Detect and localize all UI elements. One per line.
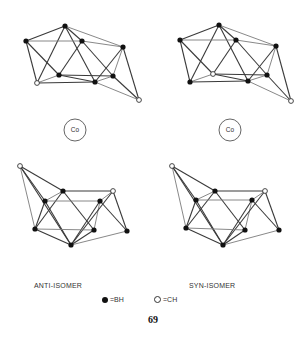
bh-atom-icon (177, 37, 182, 42)
bond-line (172, 166, 215, 191)
bond-line (223, 230, 245, 245)
bond-line (186, 200, 196, 228)
legend-label-bh: =BH (110, 296, 124, 303)
bh-atom-icon (220, 242, 225, 247)
legend-item-ch: =CH (154, 296, 177, 303)
bh-atom-icon (187, 79, 192, 84)
bond-line (59, 75, 113, 76)
structure-syn-top (180, 25, 291, 101)
anti-isomer-label: ANTI-ISOMER (34, 282, 82, 289)
bh-atom-icon (68, 242, 73, 247)
bond-line (82, 41, 113, 76)
ch-atom-icon (137, 98, 142, 103)
bh-atom-icon (233, 37, 238, 42)
bond-line (95, 47, 123, 82)
bond-line (252, 200, 279, 230)
bond-line (63, 191, 94, 230)
structure-syn-bottom (172, 166, 279, 245)
cobalt-label: Co (226, 126, 235, 133)
bh-atom-icon (79, 38, 84, 43)
bond-line (35, 201, 45, 229)
bh-atom-icon (273, 43, 278, 48)
bh-atom-icon (245, 78, 250, 83)
bond-line (95, 82, 139, 100)
co-left: Co (64, 119, 86, 141)
bh-atom-icon (216, 22, 221, 27)
bh-atom-icon (264, 72, 269, 77)
bh-atom-icon (60, 188, 65, 193)
bh-atom-icon (56, 72, 61, 77)
ch-atom-icon (18, 164, 23, 169)
bond-line (59, 41, 82, 75)
co-right: Co (219, 119, 241, 141)
bond-line (20, 166, 63, 191)
bond-line (65, 26, 95, 82)
bond-line (37, 82, 95, 83)
bond-line (82, 41, 123, 47)
ch-atom-icon (111, 189, 116, 194)
bond-line (71, 230, 94, 245)
ch-atom-icon (35, 81, 40, 86)
ch-atom-icon (263, 189, 268, 194)
ch-atom-icon (170, 164, 175, 169)
bh-atom-icon (120, 44, 125, 49)
bh-atom-icon (249, 197, 254, 202)
bond-line (45, 191, 63, 201)
bond-line (180, 40, 190, 82)
bond-line (265, 191, 279, 230)
bh-atom-icon (62, 23, 67, 28)
metals-layer: CoCo (64, 119, 241, 141)
bond-line (71, 191, 113, 245)
bond-line (213, 74, 267, 75)
bond-line (248, 81, 291, 101)
atoms-layer (18, 22, 294, 247)
bond-line (190, 81, 248, 82)
bh-atom-icon (92, 79, 97, 84)
bond-line (180, 25, 219, 40)
legend: =BH =CH (102, 296, 242, 308)
bh-atom-icon (183, 225, 188, 230)
bh-atom-icon (91, 227, 96, 232)
bh-atom-icon (212, 188, 217, 193)
bond-line (20, 166, 35, 229)
bond-line (100, 201, 127, 231)
ch-atom-icon (211, 72, 216, 77)
bond-line (113, 47, 123, 76)
bh-atom-icon (23, 38, 28, 43)
bond-line (248, 46, 276, 81)
bonds-layer (20, 25, 291, 245)
bh-atom-icon (124, 228, 129, 233)
bond-line (236, 40, 276, 46)
bh-atom-icon (110, 73, 115, 78)
bh-atom-icon (193, 197, 198, 202)
bond-line (219, 25, 248, 81)
bh-atom-icon (276, 227, 281, 232)
legend-item-bh: =BH (102, 296, 124, 303)
bond-line (219, 25, 276, 46)
structure-anti-top (26, 26, 139, 100)
legend-label-ch: =CH (163, 296, 177, 303)
bond-line (267, 46, 276, 75)
bh-atom-icon (242, 227, 247, 232)
bond-line (215, 191, 245, 230)
bond-line (219, 25, 236, 40)
bond-line (65, 26, 123, 47)
bh-atom-icon (42, 198, 47, 203)
bond-line (113, 191, 127, 231)
bh-atom-icon (97, 198, 102, 203)
bond-line (45, 201, 71, 245)
bh-atom-icon (32, 226, 37, 231)
filled-circle-icon (102, 297, 108, 303)
bond-line (223, 191, 265, 245)
syn-isomer-label: SYN-ISOMER (189, 282, 235, 289)
bond-line (35, 229, 94, 230)
bond-line (213, 40, 236, 74)
cobalt-label: Co (71, 126, 80, 133)
structure-anti-bottom (20, 166, 127, 245)
bond-line (65, 26, 82, 41)
bond-line (186, 191, 215, 228)
ch-atom-icon (289, 99, 294, 104)
page-number: 69 (0, 314, 306, 325)
bond-line (236, 40, 267, 75)
open-circle-icon (154, 296, 161, 303)
